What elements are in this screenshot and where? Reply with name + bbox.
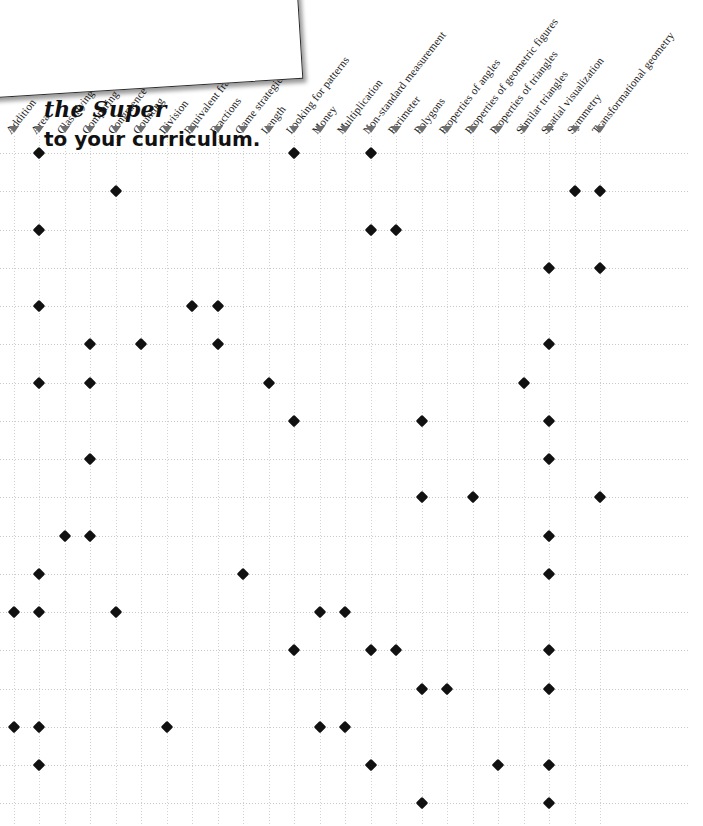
grid-row-line — [0, 689, 690, 690]
promo-headline: the Super — [44, 96, 344, 122]
diamond-marker-icon — [339, 720, 352, 733]
diamond-marker-icon — [211, 300, 224, 313]
grid-column-line — [218, 136, 219, 826]
grid-column-line — [447, 136, 448, 826]
grid-column-line — [116, 136, 117, 826]
diamond-marker-icon — [8, 720, 21, 733]
diamond-marker-icon — [543, 797, 556, 810]
diamond-marker-icon — [110, 185, 123, 198]
data-grid — [0, 136, 703, 826]
diamond-marker-icon — [543, 682, 556, 695]
grid-column-line — [65, 136, 66, 826]
diamond-marker-icon — [492, 759, 505, 772]
grid-column-line — [243, 136, 244, 826]
diamond-marker-icon — [594, 491, 607, 504]
grid-column-line — [141, 136, 142, 826]
diamond-marker-icon — [33, 759, 46, 772]
diamond-marker-icon — [466, 491, 479, 504]
diamond-marker-icon — [543, 261, 556, 274]
triangle-down-icon — [391, 126, 401, 133]
diamond-marker-icon — [364, 644, 377, 657]
diamond-marker-icon — [441, 682, 454, 695]
triangle-down-icon — [34, 126, 44, 133]
diamond-marker-icon — [543, 453, 556, 466]
diamond-marker-icon — [390, 644, 403, 657]
diamond-marker-icon — [33, 567, 46, 580]
grid-row-line — [0, 383, 690, 384]
diamond-marker-icon — [364, 147, 377, 160]
diamond-marker-icon — [84, 376, 97, 389]
triangle-down-icon — [417, 126, 427, 133]
diamond-marker-icon — [33, 376, 46, 389]
diamond-marker-icon — [33, 606, 46, 619]
diamond-marker-icon — [568, 185, 581, 198]
diamond-marker-icon — [33, 223, 46, 236]
diamond-marker-icon — [84, 453, 97, 466]
grid-column-line — [575, 136, 576, 826]
diamond-marker-icon — [84, 338, 97, 351]
diamond-marker-icon — [543, 644, 556, 657]
diamond-marker-icon — [110, 606, 123, 619]
diamond-marker-icon — [543, 414, 556, 427]
grid-row-line — [0, 574, 690, 575]
grid-row-line — [0, 459, 690, 460]
grid-row-line — [0, 765, 690, 766]
diamond-marker-icon — [237, 567, 250, 580]
triangle-down-icon — [570, 126, 580, 133]
grid-column-line — [396, 136, 397, 826]
diamond-marker-icon — [8, 606, 21, 619]
grid-column-line — [269, 136, 270, 826]
grid-column-line — [524, 136, 525, 826]
grid-column-line — [90, 136, 91, 826]
grid-row-line — [0, 421, 690, 422]
diamond-marker-icon — [517, 376, 530, 389]
diamond-marker-icon — [339, 606, 352, 619]
column-header-transformational-geometry: Transformational geometry — [590, 30, 676, 136]
diamond-marker-icon — [543, 338, 556, 351]
grid-row-line — [0, 230, 690, 231]
triangle-down-icon — [468, 126, 478, 133]
diamond-marker-icon — [288, 414, 301, 427]
triangle-down-icon — [442, 126, 452, 133]
grid-row-line — [0, 650, 690, 651]
promo-card-text: the Super to your curriculum. — [44, 96, 344, 151]
diamond-marker-icon — [288, 644, 301, 657]
diamond-marker-icon — [364, 759, 377, 772]
diamond-marker-icon — [364, 223, 377, 236]
diamond-marker-icon — [59, 529, 72, 542]
diamond-marker-icon — [543, 529, 556, 542]
diamond-marker-icon — [594, 185, 607, 198]
triangle-down-icon — [595, 126, 605, 133]
diamond-marker-icon — [33, 720, 46, 733]
diamond-marker-icon — [262, 376, 275, 389]
diamond-marker-icon — [211, 338, 224, 351]
grid-row-line — [0, 153, 690, 154]
grid-column-line — [549, 136, 550, 826]
grid-column-line — [192, 136, 193, 826]
grid-row-line — [0, 536, 690, 537]
triangle-down-icon — [544, 126, 554, 133]
triangle-down-icon — [519, 126, 529, 133]
diamond-marker-icon — [594, 261, 607, 274]
diamond-marker-icon — [313, 606, 326, 619]
diamond-marker-icon — [135, 338, 148, 351]
diamond-marker-icon — [543, 759, 556, 772]
diamond-marker-icon — [161, 720, 174, 733]
triangle-down-icon — [366, 126, 376, 133]
diamond-marker-icon — [415, 414, 428, 427]
grid-row-line — [0, 344, 690, 345]
diamond-marker-icon — [415, 491, 428, 504]
grid-column-line — [371, 136, 372, 826]
grid-column-line — [600, 136, 601, 826]
diamond-marker-icon — [186, 300, 199, 313]
diamond-marker-icon — [390, 223, 403, 236]
grid-row-line — [0, 803, 690, 804]
diamond-marker-icon — [415, 797, 428, 810]
grid-row-line — [0, 268, 690, 269]
diamond-marker-icon — [84, 529, 97, 542]
diamond-marker-icon — [313, 720, 326, 733]
triangle-down-icon — [9, 126, 19, 133]
grid-row-line — [0, 191, 690, 192]
diamond-marker-icon — [415, 682, 428, 695]
diamond-marker-icon — [33, 300, 46, 313]
